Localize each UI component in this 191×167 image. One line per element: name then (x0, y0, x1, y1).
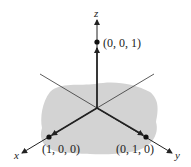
z-axis-label: z (93, 7, 99, 19)
y-axis-label: y (174, 149, 180, 161)
coordinate-diagram: z x y (0, 0, 1) (1, 0, 0) (0, 1, 0) (0, 0, 191, 167)
point-z-label: (0, 0, 1) (103, 36, 141, 50)
point-y (143, 134, 148, 139)
x-axis-label: x (13, 149, 19, 161)
point-y-label: (0, 1, 0) (116, 142, 154, 156)
point-z (94, 39, 99, 44)
point-x (46, 134, 51, 139)
point-x-label: (1, 0, 0) (42, 142, 80, 156)
